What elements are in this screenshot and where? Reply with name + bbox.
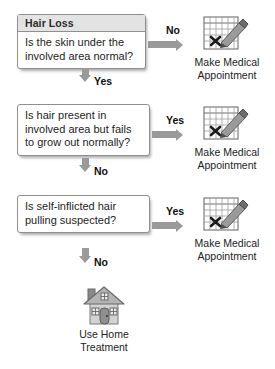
arrow-node3-to-home (79, 248, 92, 263)
node-question-text: Is the skin under the involved area norm… (18, 32, 145, 68)
arrow-stem (82, 248, 89, 256)
arrow-head (79, 165, 91, 172)
arrow-stem (152, 222, 176, 229)
calendar-pencil-icon (179, 193, 275, 235)
arrow-stem (82, 68, 89, 75)
node-question-text: Is self-inflicted hair pulling suspected… (18, 196, 149, 232)
calendar-pencil-icon (179, 12, 275, 54)
decision-node-hair-pulling: Is self-inflicted hair pulling suspected… (17, 195, 150, 233)
arrow-head (79, 75, 91, 82)
outcome-label: Make Medical Appointment (179, 146, 275, 171)
arrow-stem (82, 158, 89, 165)
branch-label-node1-no: No (166, 24, 180, 36)
arrow-stem (148, 41, 176, 48)
arrow-node2-to-node3 (79, 158, 92, 172)
outcome-label: Make Medical Appointment (179, 56, 275, 81)
outcome-make-medical-appointment-3: Make Medical Appointment (179, 193, 275, 262)
outcome-make-medical-appointment-2: Make Medical Appointment (179, 102, 275, 171)
node-question-text: Is hair present in involved area but fai… (18, 105, 149, 155)
decision-node-hair-loss: Hair Loss Is the skin under the involved… (17, 14, 146, 69)
outcome-use-home-treatment: Use Home Treatment (56, 283, 152, 353)
home-outcome-label: Use Home Treatment (56, 328, 152, 353)
branch-label-node3-no: No (94, 256, 108, 268)
house-icon (56, 283, 152, 327)
outcome-make-medical-appointment-1: Make Medical Appointment (179, 12, 275, 81)
node-header-title: Hair Loss (18, 15, 145, 32)
outcome-label: Make Medical Appointment (179, 237, 275, 262)
arrow-stem (152, 131, 176, 138)
branch-label-node1-yes: Yes (94, 75, 112, 87)
decision-node-hair-present: Is hair present in involved area but fai… (17, 104, 150, 156)
calendar-pencil-icon (179, 102, 275, 144)
hair-loss-flowchart: Hair Loss Is the skin under the involved… (0, 0, 275, 369)
arrow-head (79, 256, 91, 263)
branch-label-node2-no: No (94, 165, 108, 177)
arrow-node1-to-outcome1 (148, 38, 183, 51)
arrow-node1-to-node2 (79, 68, 92, 82)
